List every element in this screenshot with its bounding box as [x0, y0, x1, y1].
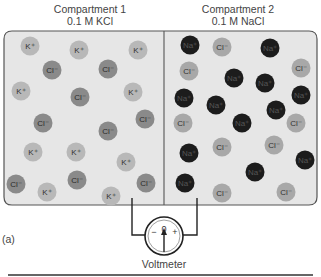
svg-text:K⁺: K⁺: [25, 42, 34, 51]
svg-text:Cl⁻: Cl⁻: [102, 127, 114, 136]
svg-text:Cl⁻: Cl⁻: [10, 180, 22, 189]
svg-text:Na⁺: Na⁺: [182, 149, 196, 158]
svg-text:Na⁺: Na⁺: [227, 74, 241, 83]
svg-text:Cl⁻: Cl⁻: [216, 143, 228, 152]
membrane-diagram: K⁺K⁺K⁺K⁺K⁺K⁺K⁺K⁺K⁺K⁺Cl⁻Cl⁻Cl⁻Cl⁻Cl⁻Cl⁻Cl…: [0, 0, 321, 277]
svg-text:Cl⁻: Cl⁻: [290, 119, 302, 128]
chloride-ion: Cl⁻: [213, 184, 232, 203]
svg-text:K⁺: K⁺: [16, 87, 25, 96]
chloride-ion: Cl⁻: [43, 61, 62, 80]
svg-text:Cl⁻: Cl⁻: [102, 65, 114, 74]
chloride-ion: Cl⁻: [174, 114, 193, 133]
svg-text:K⁺: K⁺: [74, 46, 83, 55]
svg-text:Cl⁻: Cl⁻: [71, 176, 83, 185]
svg-text:Cl⁻: Cl⁻: [74, 93, 86, 102]
chloride-ion: Cl⁻: [213, 138, 232, 157]
svg-text:Cl⁻: Cl⁻: [295, 64, 307, 73]
chloride-ion: Cl⁻: [99, 122, 118, 141]
potassium-ion: K⁺: [38, 183, 57, 202]
voltmeter-plus: +: [172, 227, 177, 237]
potassium-ion: K⁺: [12, 82, 31, 101]
chloride-ion: Cl⁻: [99, 60, 118, 79]
svg-text:Na⁺: Na⁺: [235, 119, 249, 128]
svg-text:K⁺: K⁺: [42, 188, 51, 197]
sodium-ion: Na⁺: [246, 163, 265, 182]
panel-label: (a): [2, 233, 15, 245]
chloride-ion: Cl⁻: [213, 38, 232, 57]
svg-text:Na⁺: Na⁺: [183, 41, 197, 50]
chloride-ion: Cl⁻: [71, 88, 90, 107]
sodium-ion: Na⁺: [296, 151, 315, 170]
potassium-ion: K⁺: [70, 41, 89, 60]
chloride-ion: Cl⁻: [34, 114, 53, 133]
svg-text:Cl⁻: Cl⁻: [183, 67, 195, 76]
svg-text:Cl⁻: Cl⁻: [216, 189, 228, 198]
svg-text:Na⁺: Na⁺: [178, 179, 192, 188]
sodium-ion: Na⁺: [256, 74, 275, 93]
chloride-ion: Cl⁻: [265, 136, 284, 155]
potassium-ion: K⁺: [129, 41, 148, 60]
svg-text:K⁺: K⁺: [121, 158, 130, 167]
svg-text:Cl⁻: Cl⁻: [37, 119, 49, 128]
svg-text:Cl⁻: Cl⁻: [177, 119, 189, 128]
svg-text:Cl⁻: Cl⁻: [268, 141, 280, 150]
svg-text:Na⁺: Na⁺: [177, 94, 191, 103]
bottom-rule: [8, 274, 313, 276]
sodium-ion: Na⁺: [233, 114, 252, 133]
sodium-ion: Na⁺: [207, 96, 226, 115]
svg-text:Na⁺: Na⁺: [263, 44, 277, 53]
svg-text:Na⁺: Na⁺: [298, 156, 312, 165]
voltmeter: 0 − +: [145, 217, 183, 255]
voltmeter-minus: −: [151, 227, 156, 237]
svg-text:Na⁺: Na⁺: [294, 91, 308, 100]
sodium-ion: Na⁺: [261, 39, 280, 58]
svg-text:Na⁺: Na⁺: [248, 168, 262, 177]
potassium-ion: K⁺: [102, 187, 121, 206]
svg-text:Na⁺: Na⁺: [209, 101, 223, 110]
potassium-ion: K⁺: [24, 143, 43, 162]
svg-text:Na⁺: Na⁺: [258, 79, 272, 88]
potassium-ion: K⁺: [117, 153, 136, 172]
chloride-ion: Cl⁻: [277, 183, 296, 202]
sodium-ion: Na⁺: [176, 174, 195, 193]
potassium-ion: K⁺: [21, 37, 40, 56]
chloride-ion: Cl⁻: [287, 114, 306, 133]
svg-text:Cl⁻: Cl⁻: [46, 66, 58, 75]
chloride-ion: Cl⁻: [7, 175, 26, 194]
svg-text:Na⁺: Na⁺: [269, 106, 283, 115]
potassium-ion: K⁺: [67, 143, 86, 162]
svg-text:K⁺: K⁺: [71, 148, 80, 157]
sodium-ion: Na⁺: [181, 36, 200, 55]
sodium-ion: Na⁺: [292, 86, 311, 105]
chloride-ion: Cl⁻: [292, 59, 311, 78]
sodium-ion: Na⁺: [175, 89, 194, 108]
chloride-ion: Cl⁻: [180, 62, 199, 81]
svg-text:K⁺: K⁺: [128, 88, 137, 97]
chloride-ion: Cl⁻: [137, 174, 156, 193]
sodium-ion: Na⁺: [225, 69, 244, 88]
voltmeter-label: Voltmeter: [124, 258, 204, 270]
svg-text:Cl⁻: Cl⁻: [216, 43, 228, 52]
svg-text:K⁺: K⁺: [133, 46, 142, 55]
svg-text:Cl⁻: Cl⁻: [140, 179, 152, 188]
sodium-ion: Na⁺: [180, 144, 199, 163]
potassium-ion: K⁺: [124, 83, 143, 102]
svg-text:K⁺: K⁺: [28, 148, 37, 157]
svg-text:Cl⁻: Cl⁻: [139, 115, 151, 124]
sodium-ion: Na⁺: [267, 101, 286, 120]
chloride-ion: Cl⁻: [136, 110, 155, 129]
svg-text:K⁺: K⁺: [106, 192, 115, 201]
svg-text:Cl⁻: Cl⁻: [280, 188, 292, 197]
chloride-ion: Cl⁻: [68, 171, 87, 190]
